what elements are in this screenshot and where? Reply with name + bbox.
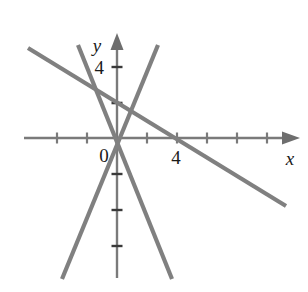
plotted-lines-group xyxy=(28,45,286,279)
x-tick-label-4: 4 xyxy=(171,147,181,168)
graph-figure: y x 4 0 4 xyxy=(0,0,308,292)
y-axis-label: y xyxy=(91,35,102,56)
line-shallow-negative xyxy=(28,48,286,206)
x-axis-label: x xyxy=(285,148,295,169)
x-axis-arrowhead xyxy=(282,132,300,145)
line-steep-negative xyxy=(78,45,172,279)
coordinate-plane-svg: y x 4 0 4 xyxy=(0,0,308,292)
y-tick-label-4: 4 xyxy=(95,57,105,78)
y-axis-arrowhead xyxy=(111,33,124,50)
origin-label: 0 xyxy=(99,145,109,166)
